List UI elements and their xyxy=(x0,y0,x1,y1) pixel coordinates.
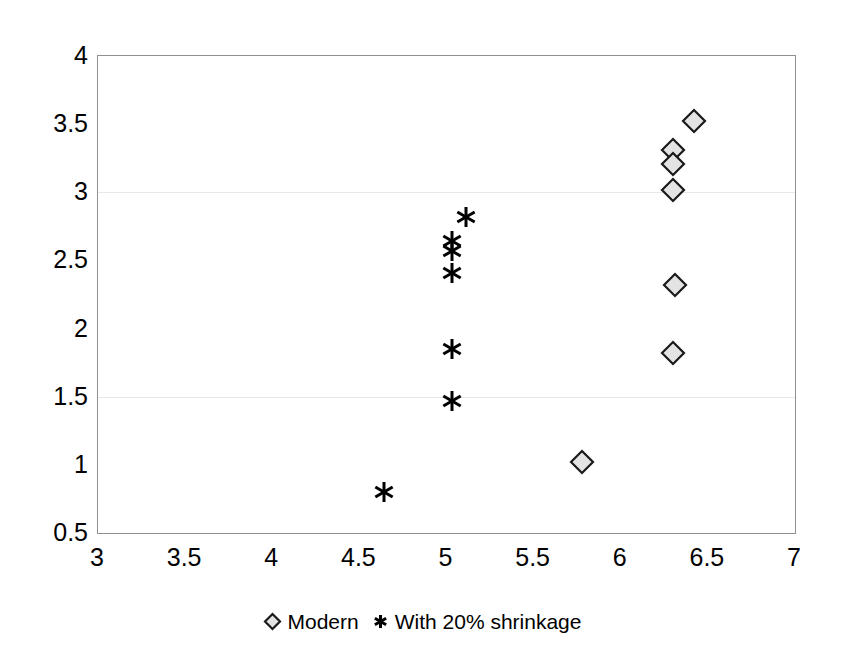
x-axis-tick-label: 4 xyxy=(264,545,278,570)
asterisk-marker-icon xyxy=(373,614,388,629)
gridline-y xyxy=(98,192,795,193)
data-point xyxy=(441,262,463,284)
data-point xyxy=(441,338,463,360)
x-axis-tick-label: 5 xyxy=(439,545,453,570)
x-axis-tick-label: 6.5 xyxy=(689,545,724,570)
x-axis-tick-label: 6 xyxy=(613,545,627,570)
y-axis-tick-label: 3 xyxy=(74,179,88,204)
chart-legend: ModernWith 20% shrinkage xyxy=(0,608,845,632)
diamond-marker-icon xyxy=(264,613,281,630)
data-point xyxy=(441,390,463,412)
plot-area xyxy=(97,55,796,534)
scatter-chart: 0.511.522.533.54 33.544.555.566.57 Moder… xyxy=(0,0,845,671)
x-axis-tick-label: 5.5 xyxy=(515,545,550,570)
data-point xyxy=(663,273,687,297)
x-axis-tick-label: 7 xyxy=(787,545,801,570)
y-axis-tick-label: 1 xyxy=(74,451,88,476)
data-point xyxy=(441,240,463,262)
x-axis-tick-label: 3.5 xyxy=(167,545,202,570)
x-axis-tick-label: 3 xyxy=(90,545,104,570)
data-point xyxy=(455,206,477,228)
y-axis-tick-label: 4 xyxy=(74,43,88,68)
data-point xyxy=(661,152,685,176)
data-point xyxy=(373,481,395,503)
x-axis: 33.544.555.566.57 xyxy=(0,545,845,585)
data-point xyxy=(661,341,685,365)
y-axis-tick-label: 3.5 xyxy=(53,111,88,136)
legend-entry: Modern xyxy=(264,609,359,632)
data-point xyxy=(682,109,706,133)
y-axis-tick-label: 1.5 xyxy=(53,383,88,408)
data-point xyxy=(661,178,685,202)
legend-label: Modern xyxy=(288,611,359,632)
y-axis-tick-label: 2.5 xyxy=(53,247,88,272)
x-axis-tick-label: 4.5 xyxy=(341,545,376,570)
legend-label: With 20% shrinkage xyxy=(395,611,582,632)
data-point xyxy=(570,450,594,474)
y-axis-tick-label: 2 xyxy=(74,315,88,340)
y-axis-tick-label: 0.5 xyxy=(53,520,88,545)
legend-entry: With 20% shrinkage xyxy=(373,609,582,632)
